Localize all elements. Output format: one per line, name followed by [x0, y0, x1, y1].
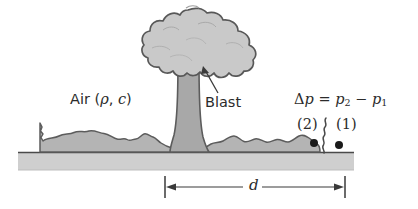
label-distance-d: d [249, 178, 259, 193]
dim-arrow-left [166, 184, 176, 191]
ground-layer [18, 152, 354, 170]
label-blast: Blast [205, 95, 241, 110]
debris-left [40, 123, 172, 152]
label-pressure-equation: Δp = p2 − p1 [294, 92, 387, 108]
point-2-dot [310, 139, 318, 147]
rho-symbol: ρ [100, 91, 109, 107]
eq-equals-sign: = [314, 91, 335, 107]
label-point-2: (2) [297, 117, 318, 132]
point-1-dot [335, 141, 343, 149]
air-comma-text: , [109, 91, 118, 107]
eq-p-symbol: p [304, 91, 313, 107]
ground-slab [18, 152, 354, 170]
cloud-cap [142, 8, 256, 77]
air-prefix-text: Air ( [70, 91, 100, 107]
eq-minus-sign: − [351, 91, 372, 107]
air-suffix-text: ) [126, 91, 132, 107]
shock-front [323, 118, 326, 153]
blast-cloud [142, 6, 256, 78]
dim-arrow-right [334, 184, 344, 191]
shock-front-wave [323, 118, 326, 153]
label-air: Air (ρ, c) [70, 92, 132, 107]
delta-symbol: Δ [294, 91, 304, 107]
blast-wave-figure: Air (ρ, c) Blast Δp = p2 − p1 (2) (1) d [0, 0, 418, 209]
eq-subscript-1: 1 [381, 97, 387, 108]
debris-right [200, 135, 320, 152]
eq-p1-symbol: p [372, 91, 381, 107]
label-point-1: (1) [336, 117, 357, 132]
c-symbol: c [118, 91, 126, 107]
